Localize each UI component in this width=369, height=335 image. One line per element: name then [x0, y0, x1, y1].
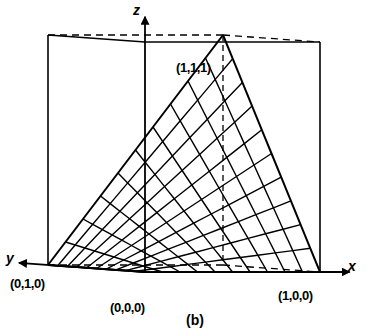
z-axis-label: z — [133, 2, 140, 18]
origin-label: (0,0,0) — [110, 300, 145, 315]
apex-vertex-label: (1,1,1) — [176, 60, 211, 75]
x-vertex-label: (1,0,0) — [278, 288, 313, 303]
surface-mesh — [58, 58, 311, 272]
figure-3d-surface-plot: y x z (0,1,0) (0,0,0) (1,0,0) (1,1,1) (b… — [0, 0, 369, 335]
y-axis-label: y — [6, 250, 14, 266]
figure-caption: (b) — [186, 312, 204, 328]
y-vertex-label: (0,1,0) — [10, 276, 45, 291]
x-axis-label: x — [348, 258, 356, 274]
figure-canvas — [0, 0, 369, 335]
